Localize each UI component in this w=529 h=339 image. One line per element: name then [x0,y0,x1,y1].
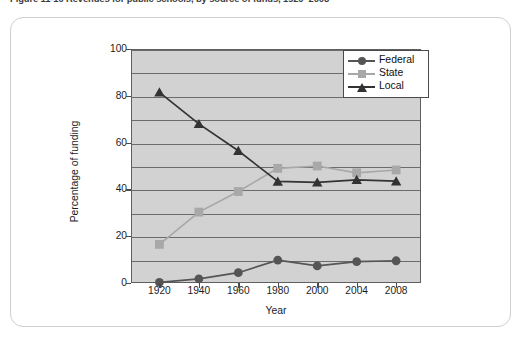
legend-swatch-circle-icon [348,55,375,66]
x-axis-tick-mark [396,283,397,288]
data-point-marker [155,240,164,249]
legend-label: State [379,68,403,78]
series-state [155,162,401,249]
legend-swatch-triangle-icon [348,81,375,92]
legend-marker-triangle-icon [357,83,367,92]
y-axis-tick-mark [126,189,131,190]
legend-marker-square-icon [358,70,366,78]
data-point-marker [273,164,282,173]
x-axis-tick-mark [317,283,318,288]
data-point-marker [352,257,361,266]
legend-item-state[interactable]: State [348,67,423,80]
chart-series-canvas [0,0,529,339]
data-point-marker [392,166,401,175]
data-point-marker [194,208,203,217]
data-point-marker [273,256,282,265]
data-point-marker [313,262,322,271]
data-point-marker [233,146,243,155]
y-axis-tick-mark [126,143,131,144]
data-point-marker [234,268,243,277]
data-point-marker [392,256,401,265]
y-axis-tick-mark [126,283,131,284]
data-point-marker [194,274,203,283]
x-axis-tick-mark [199,283,200,288]
chart-legend: FederalStateLocal [343,50,429,98]
legend-item-federal[interactable]: Federal [348,54,423,67]
x-axis-tick-mark [159,283,160,288]
x-axis-tick-mark [278,283,279,288]
y-axis-tick-mark [126,236,131,237]
legend-swatch-square-icon [348,68,375,79]
legend-label: Federal [379,55,414,65]
y-axis-tick-mark [126,49,131,50]
data-point-marker [234,187,243,196]
x-axis-tick-mark [357,283,358,288]
data-point-marker [313,162,322,171]
legend-marker-circle-icon [358,57,366,65]
legend-item-local[interactable]: Local [348,80,423,93]
data-point-marker [154,87,164,96]
y-axis-tick-mark [126,96,131,97]
x-axis-tick-mark [238,283,239,288]
legend-label: Local [379,81,404,91]
